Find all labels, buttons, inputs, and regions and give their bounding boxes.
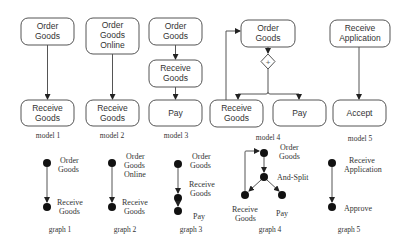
model-3: Order Goods Receive Goods Pay model 3 <box>149 18 202 140</box>
graph-node <box>328 159 336 167</box>
svg-text:Order: Order <box>37 21 59 31</box>
graph-caption: graph 2 <box>114 225 137 234</box>
svg-text:Application: Application <box>339 33 381 43</box>
svg-text:Goods: Goods <box>163 31 188 41</box>
sequence-flow-arrow <box>268 92 299 99</box>
graph-caption: graph 5 <box>338 225 361 234</box>
svg-text:Order: Order <box>192 152 211 161</box>
svg-text:Pay: Pay <box>292 108 307 118</box>
graph-node <box>174 194 182 202</box>
svg-text:Goods: Goods <box>59 207 80 216</box>
loop-back-edge <box>245 151 259 191</box>
svg-text:And-Split: And-Split <box>277 173 309 182</box>
svg-text:Order: Order <box>102 20 124 30</box>
svg-text:Goods: Goods <box>224 113 249 123</box>
graph-node <box>43 203 51 211</box>
svg-text:Receive: Receive <box>32 103 63 113</box>
graph-node <box>108 203 116 211</box>
svg-text:Goods: Goods <box>190 189 211 198</box>
svg-text:Application: Application <box>344 165 382 174</box>
svg-text:Goods: Goods <box>35 113 60 123</box>
svg-text:Order: Order <box>60 156 79 165</box>
model-5: Receive Application Accept model 5 <box>330 20 390 143</box>
svg-text:Online: Online <box>100 40 125 50</box>
graph-2: Order Goods Online Receive Goods graph 2 <box>108 152 148 234</box>
model-caption: model 2 <box>100 131 125 140</box>
svg-text:Receive: Receive <box>189 180 215 189</box>
svg-text:Receive: Receive <box>57 198 83 207</box>
svg-text:Online: Online <box>124 170 146 179</box>
svg-text:Order: Order <box>280 143 299 152</box>
svg-text:Goods: Goods <box>255 33 280 43</box>
graph-node <box>278 191 286 199</box>
sequence-flow-arrow <box>238 69 268 99</box>
graph-edge <box>249 180 261 191</box>
graph-caption: graph 4 <box>259 225 282 234</box>
svg-text:Goods: Goods <box>100 30 125 40</box>
graph-node <box>108 159 116 167</box>
model-caption: model 4 <box>256 133 281 142</box>
svg-text:Receive: Receive <box>160 63 191 73</box>
svg-text:Order: Order <box>257 23 279 33</box>
svg-text:Receive: Receive <box>349 156 375 165</box>
svg-text:Goods: Goods <box>124 207 145 216</box>
svg-text:Receive: Receive <box>97 103 128 113</box>
model-caption: model 5 <box>348 134 373 143</box>
loop-back-arrow <box>226 31 240 100</box>
svg-text:Pay: Pay <box>168 108 183 118</box>
svg-text:Receive: Receive <box>122 198 148 207</box>
graph-node <box>43 159 51 167</box>
svg-text:Accept: Accept <box>347 108 374 118</box>
model-4: Order Goods + Receive Goods Pay model 4 <box>210 20 326 142</box>
graph-node <box>241 191 249 199</box>
model-caption: model 1 <box>36 131 61 140</box>
graph-node <box>260 173 268 181</box>
svg-text:Goods: Goods <box>163 73 188 83</box>
plus-icon: + <box>266 58 271 67</box>
graph-node <box>260 149 268 157</box>
svg-text:Goods: Goods <box>279 152 300 161</box>
model-1: Order Goods Receive Goods model 1 <box>21 18 74 140</box>
svg-text:Goods: Goods <box>35 31 60 41</box>
graph-1: Order Goods Receive Goods graph 1 <box>43 156 83 234</box>
model-caption: model 3 <box>164 131 189 140</box>
graph-caption: graph 3 <box>180 225 203 234</box>
svg-text:Pay: Pay <box>193 212 205 221</box>
svg-text:Receive: Receive <box>232 205 258 214</box>
graph-4: Order Goods And-Split Receive Goods Pay … <box>232 143 309 234</box>
process-models-diagram: Order Goods Receive Goods model 1 Order … <box>0 0 405 250</box>
graph-5: Receive Application Approve graph 5 <box>328 156 382 234</box>
svg-text:Goods: Goods <box>235 214 256 223</box>
svg-text:Order: Order <box>126 152 145 161</box>
graph-node <box>174 160 182 168</box>
graph-3: Order Goods Receive Goods Pay graph 3 <box>174 152 215 234</box>
svg-text:Receive: Receive <box>345 23 376 33</box>
svg-text:Goods: Goods <box>58 165 79 174</box>
svg-text:Order: Order <box>165 21 187 31</box>
graph-node <box>328 203 336 211</box>
graph-node <box>174 207 182 215</box>
svg-text:Receive: Receive <box>221 103 252 113</box>
svg-text:Approve: Approve <box>344 204 372 213</box>
svg-text:Goods: Goods <box>124 161 145 170</box>
svg-text:Goods: Goods <box>100 113 125 123</box>
svg-text:Pay: Pay <box>276 209 288 218</box>
svg-text:Goods: Goods <box>190 161 211 170</box>
graph-caption: graph 1 <box>49 225 72 234</box>
model-2: Order Goods Online Receive Goods model 2 <box>86 18 139 140</box>
